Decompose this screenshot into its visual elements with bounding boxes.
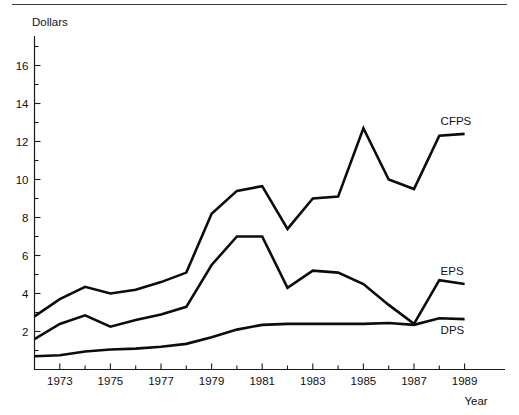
line-chart-canvas: Dollars Year 246810121416 19731975197719… xyxy=(0,0,519,415)
y-tick-label: 6 xyxy=(22,250,28,262)
series-labels-group: CFPSEPSDPS xyxy=(441,115,472,336)
x-tick-label: 1985 xyxy=(351,375,377,387)
series-paths-group xyxy=(35,128,465,356)
y-axis-tick-labels: 246810121416 xyxy=(16,60,29,338)
x-tick-label: 1987 xyxy=(401,375,427,387)
y-tick-label: 14 xyxy=(16,98,29,110)
y-tick-label: 2 xyxy=(22,326,28,338)
series-line-dps xyxy=(35,318,465,356)
series-line-cfps xyxy=(35,128,465,316)
chart-figure: Dollars Year 246810121416 19731975197719… xyxy=(0,0,519,415)
y-tick-label: 8 xyxy=(22,212,28,224)
x-axis-tick-labels: 197319751977197919811983198519871989 xyxy=(47,375,477,387)
y-axis-title: Dollars xyxy=(32,16,68,28)
x-tick-label: 1973 xyxy=(47,375,73,387)
x-axis-title: Year xyxy=(464,395,487,407)
series-label-eps: EPS xyxy=(441,265,464,277)
x-tick-label: 1979 xyxy=(199,375,225,387)
y-tick-label: 16 xyxy=(16,60,29,72)
x-tick-label: 1975 xyxy=(98,375,124,387)
y-tick-label: 4 xyxy=(22,288,29,300)
x-tick-label: 1983 xyxy=(300,375,326,387)
x-tick-label: 1977 xyxy=(148,375,174,387)
x-tick-label: 1989 xyxy=(452,375,478,387)
y-tick-label: 12 xyxy=(16,136,29,148)
series-label-cfps: CFPS xyxy=(441,115,472,127)
x-tick-label: 1981 xyxy=(249,375,275,387)
x-axis-ticks xyxy=(60,364,465,370)
series-label-dps: DPS xyxy=(441,324,465,336)
y-axis-ticks xyxy=(35,47,41,351)
y-tick-label: 10 xyxy=(16,174,29,186)
